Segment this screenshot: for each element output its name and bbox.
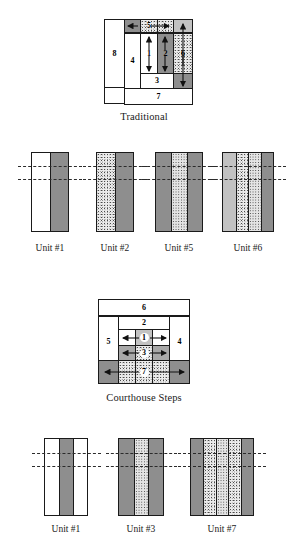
- cell-number: 3: [155, 77, 159, 85]
- traditional-cell-2: 2: [157, 33, 174, 74]
- courthouse-row7-left: [118, 360, 136, 384]
- unit-cut-line: [142, 179, 216, 180]
- traditional-cell-7: 7: [124, 88, 193, 105]
- unit-cut-line: [32, 466, 101, 467]
- unit-strip: [134, 439, 149, 515]
- unit-cut-line: [142, 166, 216, 167]
- traditional-unit-6-label: Unit #6: [218, 243, 278, 253]
- unit-strip: [59, 439, 73, 515]
- unit-strip: [171, 153, 186, 231]
- courthouse-row3-left: [118, 345, 136, 361]
- courthouse-unit-7: [190, 438, 254, 516]
- traditional-top-stipple-right: [157, 19, 174, 33]
- unit-cut-line: [32, 453, 101, 454]
- cell-number: 2: [164, 50, 168, 58]
- unit-strip: [248, 153, 261, 231]
- unit-cut-line: [106, 453, 177, 454]
- traditional-unit-6: [222, 152, 274, 232]
- unit-strip: [119, 439, 134, 515]
- traditional-top-light-right: [173, 19, 193, 33]
- unit-cut-line: [210, 166, 286, 167]
- courthouse-steps-caption: Courthouse Steps: [0, 392, 288, 403]
- cell-number: 3: [140, 349, 149, 358]
- unit-strip: [228, 439, 240, 515]
- unit-cut-line: [178, 466, 266, 467]
- traditional-cell-1: 1: [140, 33, 158, 74]
- traditional-cell-8: 8: [104, 19, 125, 88]
- unit-strip: [187, 153, 202, 231]
- traditional-unit-1-label: Unit #1: [20, 243, 80, 253]
- traditional-cell-5: 5: [140, 19, 158, 33]
- unit-cut-line: [178, 453, 266, 454]
- quilt-block-figure-page: 8 4 5 1 2 6 3: [0, 0, 288, 534]
- traditional-unit-5-label: Unit #5: [149, 243, 209, 253]
- courthouse-cell-3: 3: [135, 345, 153, 361]
- courthouse-cell-7: 7: [135, 360, 153, 384]
- traditional-cell-4: 4: [124, 33, 141, 89]
- unit-strip: [203, 439, 215, 515]
- unit-cut-line: [83, 166, 147, 167]
- traditional-cell-6: 6: [173, 33, 193, 74]
- unit-strip: [50, 153, 68, 231]
- courthouse-cell-6: 6: [98, 299, 190, 316]
- traditional-cell-3: 3: [140, 73, 174, 89]
- courthouse-centre-right-white: [152, 329, 170, 346]
- courthouse-unit-7-label: Unit #7: [192, 524, 252, 534]
- courthouse-row3-right: [152, 345, 170, 361]
- courthouse-unit-3-label: Unit #3: [111, 524, 171, 534]
- cell-number: 5: [107, 338, 111, 346]
- traditional-block-diagram: 8 4 5 1 2 6 3: [104, 19, 192, 104]
- courthouse-row7-right: [152, 360, 170, 384]
- unit-strip: [115, 153, 133, 231]
- unit-strip: [73, 439, 87, 515]
- unit-cut-line: [83, 179, 147, 180]
- courthouse-steps-block-diagram: 6 5 4 2 1 3 7: [98, 299, 190, 383]
- courthouse-centre-left-white: [118, 329, 136, 346]
- traditional-top-dark-left: [124, 19, 141, 33]
- unit-strip: [261, 153, 274, 231]
- unit-cut-line: [18, 166, 82, 167]
- cell-number: 1: [147, 50, 151, 58]
- unit-strip: [32, 153, 50, 231]
- cell-number: 4: [131, 57, 135, 65]
- cell-number: 6: [181, 50, 185, 58]
- traditional-caption: Traditional: [0, 111, 288, 122]
- cell-number: 7: [157, 93, 161, 101]
- courthouse-cell-1: 1: [135, 329, 153, 346]
- unit-strip: [216, 439, 228, 515]
- cell-number: 2: [142, 319, 146, 327]
- unit-strip: [97, 153, 115, 231]
- unit-cut-line: [18, 179, 82, 180]
- courthouse-row7-far-left: [98, 360, 119, 384]
- courthouse-unit-1-label: Unit #1: [36, 524, 96, 534]
- courthouse-cell-2: 2: [118, 316, 170, 330]
- unit-strip: [236, 153, 249, 231]
- traditional-unit-2-label: Unit #2: [85, 243, 145, 253]
- unit-strip: [148, 439, 163, 515]
- cell-number: 5: [147, 22, 151, 30]
- traditional-unit-1: [31, 152, 69, 232]
- unit-strip: [156, 153, 171, 231]
- unit-strip: [45, 439, 59, 515]
- unit-cut-line: [106, 466, 177, 467]
- courthouse-unit-1: [44, 438, 88, 516]
- cell-number: 7: [140, 368, 149, 377]
- traditional-unit-5: [155, 152, 203, 232]
- unit-strip: [241, 439, 253, 515]
- unit-cut-line: [210, 179, 286, 180]
- unit-strip: [191, 439, 203, 515]
- cell-number: 8: [113, 50, 117, 58]
- traditional-unit-2: [96, 152, 134, 232]
- cell-number: 6: [142, 304, 146, 312]
- cell-number: 4: [178, 338, 182, 346]
- courthouse-unit-3: [118, 438, 164, 516]
- cell-number: 1: [140, 333, 149, 342]
- unit-strip: [223, 153, 236, 231]
- traditional-lower-dark-right: [173, 73, 193, 89]
- courthouse-row7-far-right: [169, 360, 190, 384]
